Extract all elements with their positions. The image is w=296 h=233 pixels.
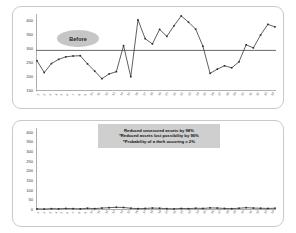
x-axis-tick-label: 5 xyxy=(60,211,64,214)
dual-chart-figure: 150200250300350400 123456789101112131415… xyxy=(0,0,296,233)
y-axis-tick-label: 250 xyxy=(14,160,33,164)
series-marker xyxy=(101,78,103,80)
series-marker xyxy=(238,207,240,209)
series-marker xyxy=(94,208,96,210)
callout-line-1: Reduced unsecured assets by 98% xyxy=(124,128,194,133)
x-axis-tick-label: 26 xyxy=(211,210,215,215)
series-marker xyxy=(108,73,110,75)
x-axis-tick-label: 16 xyxy=(135,210,139,215)
series-marker xyxy=(152,43,154,45)
x-axis-tick-label: 12 xyxy=(105,92,109,97)
x-axis-tick-label: 29 xyxy=(233,92,237,97)
series-marker xyxy=(231,67,233,69)
x-axis-tick-label: 11 xyxy=(97,92,101,96)
x-axis-tick-label: 28 xyxy=(226,92,230,97)
x-axis-tick-label: 1 xyxy=(37,93,41,96)
x-axis-tick-label: 30 xyxy=(241,92,245,97)
x-axis-tick-label: 17 xyxy=(143,92,147,97)
x-axis-tick-label: 5 xyxy=(60,93,64,96)
y-axis-tick-label: 50 xyxy=(14,198,33,202)
x-axis-tick-label: 2 xyxy=(43,211,47,214)
x-axis-tick-label: 34 xyxy=(271,92,275,97)
series-marker xyxy=(245,207,247,209)
x-axis-labels-after: 1234567891011121314151617181920212223242… xyxy=(37,213,275,227)
series-marker xyxy=(58,208,60,210)
x-axis-tick-label: 9 xyxy=(84,93,88,96)
x-axis-tick-label: 8 xyxy=(78,211,82,214)
series-marker xyxy=(58,59,60,61)
x-axis-tick-label: 19 xyxy=(158,92,162,97)
series-marker xyxy=(101,207,103,209)
x-axis-tick-label: 25 xyxy=(203,92,207,97)
x-axis-tick-label: 26 xyxy=(211,92,215,97)
series-marker xyxy=(209,73,211,75)
x-axis-tick-label: 24 xyxy=(196,210,200,215)
series-marker xyxy=(238,61,240,63)
y-axis-tick-label: 200 xyxy=(14,169,33,173)
x-axis-tick-label: 13 xyxy=(112,92,116,97)
x-axis-tick-label: 32 xyxy=(256,92,260,97)
x-axis-tick-label: 15 xyxy=(127,210,131,215)
series-marker xyxy=(116,71,118,73)
series-marker xyxy=(195,28,197,30)
series-marker xyxy=(209,207,211,209)
y-axis-tick-label: 300 xyxy=(14,47,33,51)
y-axis-tick-label: 400 xyxy=(14,19,33,23)
series-marker xyxy=(72,55,74,57)
series-marker xyxy=(36,208,38,210)
x-axis-tick-label: 1 xyxy=(37,211,41,214)
x-axis-tick-label: 32 xyxy=(256,210,260,215)
series-marker xyxy=(94,70,96,72)
x-axis-tick-label: 27 xyxy=(218,92,222,97)
series-marker xyxy=(274,207,276,209)
x-axis-tick-label: 6 xyxy=(66,93,70,96)
series-marker xyxy=(72,208,74,210)
y-axis-tick-label: 350 xyxy=(14,140,33,144)
series-marker xyxy=(137,19,139,21)
series-marker xyxy=(87,63,89,65)
x-axis-tick-label: 3 xyxy=(49,93,53,96)
series-marker xyxy=(65,208,67,210)
series-marker xyxy=(202,45,204,47)
x-axis-tick-label: 17 xyxy=(143,210,147,215)
series-marker xyxy=(267,208,269,210)
x-axis-tick-label: 4 xyxy=(55,211,59,214)
series-marker xyxy=(253,47,255,49)
x-axis-tick-label: 12 xyxy=(105,210,109,215)
x-axis-tick-label: 4 xyxy=(55,93,59,96)
x-axis-tick-label: 19 xyxy=(158,210,162,215)
y-axis-tick-label: 150 xyxy=(14,179,33,183)
series-marker xyxy=(43,208,45,210)
series-marker xyxy=(188,21,190,23)
x-axis-tick-label: 7 xyxy=(72,93,76,96)
x-axis-tick-label: 15 xyxy=(127,92,131,97)
y-axis-tick-label: 250 xyxy=(14,61,33,65)
x-axis-tick-label: 2 xyxy=(43,93,47,96)
x-axis-tick-label: 7 xyxy=(72,211,76,214)
x-axis-tick-label: 33 xyxy=(264,92,268,97)
series-marker xyxy=(43,72,45,74)
series-marker xyxy=(123,45,125,47)
series-marker xyxy=(231,208,233,210)
y-axis-tick-label: 400 xyxy=(14,131,33,135)
y-axis-tick-label: 300 xyxy=(14,150,33,154)
x-axis-tick-label: 27 xyxy=(218,210,222,215)
series-marker xyxy=(51,208,53,210)
x-axis-tick-label: 21 xyxy=(173,210,177,215)
x-axis-labels-before: 1234567891011121314151617181920212223242… xyxy=(37,95,275,109)
x-axis-tick-label: 21 xyxy=(173,92,177,97)
y-axis-tick-label: 0 xyxy=(14,208,33,212)
series-marker xyxy=(123,207,125,209)
x-axis-tick-label: 13 xyxy=(112,210,116,215)
series-marker xyxy=(79,55,81,57)
series-marker xyxy=(130,207,132,209)
x-axis-tick-label: 22 xyxy=(180,92,184,97)
series-marker xyxy=(180,15,182,17)
x-axis-tick-label: 28 xyxy=(226,210,230,215)
x-axis-tick-label: 16 xyxy=(135,92,139,97)
series-marker xyxy=(79,208,81,210)
series-marker xyxy=(260,207,262,209)
series-marker xyxy=(224,65,226,67)
y-axis-tick-label: 200 xyxy=(14,75,33,79)
x-axis-tick-label: 23 xyxy=(188,92,192,97)
